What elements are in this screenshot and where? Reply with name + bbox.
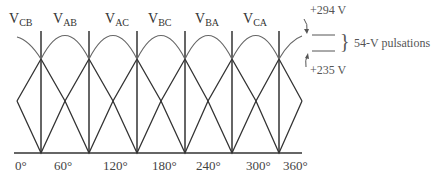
tick-60: 60° [54,158,72,174]
rectified-arcs [17,36,302,60]
vertical-lines [41,31,279,153]
label-vcb: VCB [9,11,32,28]
pulsation-label: 54-V pulsations [354,36,430,51]
triangle-lines [17,59,302,153]
label-vac: VAC [105,11,129,28]
label-vab: VAB [53,11,77,28]
label-vbc: VBC [148,11,171,28]
tick-120: 120° [103,158,128,174]
label-vba: VBA [195,11,219,28]
valley-voltage-label: +235 V [310,63,346,78]
tick-360: 360° [283,158,308,174]
peak-voltage-label: +294 V [310,3,346,18]
tick-240: 240° [196,158,221,174]
brace: } [340,30,350,53]
tick-180: 180° [152,158,177,174]
label-vca: VCA [243,11,267,28]
tick-0: 0° [15,158,27,174]
tick-300: 300° [246,158,271,174]
